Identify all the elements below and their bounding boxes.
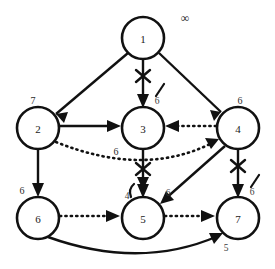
node-1-distance-label: ∞ (181, 11, 190, 25)
edge-2-to-3 (59, 120, 121, 132)
graph-node-7[interactable]: 7 (217, 197, 259, 239)
graph-node-2[interactable]: 2 (17, 107, 59, 149)
edge-2-to-6 (32, 149, 44, 197)
edge-3-to-5 (136, 149, 150, 198)
edge-3-to-5-weight: 4 (125, 191, 130, 201)
node-2-distance-label: 7 (31, 95, 36, 106)
edge-1-to-2 (56, 53, 128, 123)
edge-4-to-7-weight: 6 (250, 187, 255, 197)
node-5-label: 5 (140, 213, 146, 225)
node-7-label: 7 (235, 213, 241, 225)
graph-node-3[interactable]: 3 (122, 107, 164, 149)
graph-node-5[interactable]: 5 (122, 197, 164, 239)
edge-4-to-3 (165, 120, 216, 132)
node-4-label: 4 (235, 123, 241, 135)
edge-1-to-4 (159, 53, 221, 121)
diagram-canvas: 6 6 (0, 0, 275, 269)
graph-node-6[interactable]: 6 (17, 197, 59, 239)
edge-5-to-7 (165, 210, 215, 222)
edge-6-to-5 (60, 210, 120, 222)
graph-node-4[interactable]: 4 (217, 107, 259, 149)
graph-node-1[interactable]: 1 (122, 17, 164, 59)
node-3-label: 3 (140, 123, 146, 135)
node-3-distance-label: 6 (114, 146, 119, 157)
edge-6-to-7-weight: 5 (224, 243, 229, 253)
edge-4-to-7 (231, 149, 245, 198)
graph-svg: 6 6 (0, 0, 275, 269)
edge-4-to-7-slash-mark (251, 175, 259, 187)
node-4-distance-label: 6 (238, 95, 243, 106)
edge-1-to-3-slash-mark (156, 84, 164, 96)
node-6-distance-label: 6 (20, 185, 25, 196)
edge-3-to-5-slash-mark (130, 184, 134, 197)
edge-1-to-3 (136, 59, 150, 108)
edge-1-to-3-weight: 6 (155, 96, 160, 106)
node-2-label: 2 (35, 123, 41, 135)
edge-4-to-5-weight: 6 (166, 188, 171, 198)
node-1-label: 1 (140, 33, 146, 45)
node-6-label: 6 (35, 213, 41, 225)
